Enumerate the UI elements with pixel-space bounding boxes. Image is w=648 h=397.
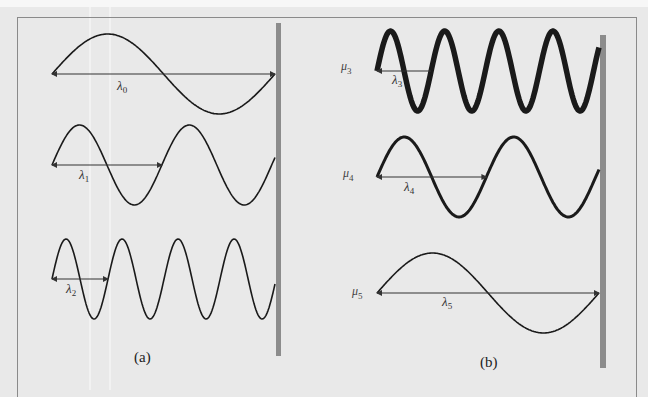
- wall-b: [600, 35, 606, 368]
- lambda-2-label: λ2: [65, 281, 76, 298]
- lambda-4-label: λ4: [403, 179, 415, 196]
- lambda-3-label: λ3: [391, 72, 403, 89]
- caption-a: (a): [134, 349, 151, 366]
- lambda-5-label: λ5: [441, 294, 453, 311]
- lambda-1-label: λ1: [78, 167, 89, 184]
- mu-4-label: μ4: [342, 166, 354, 183]
- mu-5-label: μ5: [351, 284, 363, 301]
- mu-3-label: μ3: [340, 59, 352, 76]
- lambda-0-label: λ0: [116, 78, 128, 95]
- wall-a: [276, 23, 281, 356]
- caption-b: (b): [480, 354, 498, 371]
